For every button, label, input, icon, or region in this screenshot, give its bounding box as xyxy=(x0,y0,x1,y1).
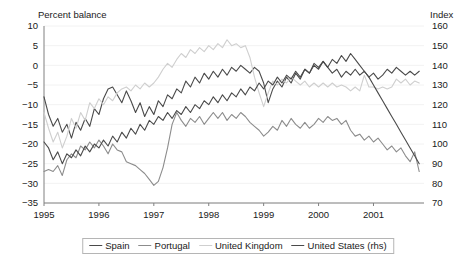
y-axis-tick-label: −20 xyxy=(22,138,38,149)
legend-item-portugal: Portugal xyxy=(139,241,190,251)
legend-swatch-icon xyxy=(139,245,152,246)
legend-label: United States (rhs) xyxy=(308,241,387,251)
y-axis-tick-label: −5 xyxy=(27,79,38,90)
y2-axis-tick-label: 160 xyxy=(432,20,448,31)
y2-axis-tick-label: 70 xyxy=(432,197,443,208)
y-axis-tick-label: −35 xyxy=(22,197,38,208)
legend-swatch-icon xyxy=(292,245,305,246)
y-axis-tick-label: −30 xyxy=(22,178,38,189)
y-axis-tick-label: 10 xyxy=(27,20,38,31)
y2-axis-tick-label: 130 xyxy=(432,79,448,90)
y2-axis-tick-label: 150 xyxy=(432,40,448,51)
y2-axis-tick-label: 140 xyxy=(432,60,448,71)
y2-axis-tick-label: 80 xyxy=(432,178,443,189)
legend-item-spain: Spain xyxy=(89,241,129,251)
x-axis-tick-label: 1995 xyxy=(33,209,54,220)
y-axis-tick-label: 5 xyxy=(33,40,38,51)
y2-axis-tick-label: 100 xyxy=(432,138,448,149)
y-axis-tick-label: −10 xyxy=(22,99,38,110)
y2-axis-tick-label: 90 xyxy=(432,158,443,169)
legend-swatch-icon xyxy=(199,245,212,246)
x-axis-tick-label: 1997 xyxy=(143,209,164,220)
y-axis-tick-label: 0 xyxy=(33,60,38,71)
x-axis-tick-label: 1998 xyxy=(198,209,219,220)
legend-item-united-states-rhs: United States (rhs) xyxy=(292,241,387,251)
y2-axis-tick-label: 110 xyxy=(432,119,447,130)
x-axis-tick-label: 2001 xyxy=(363,209,384,220)
y2-axis-tick-label: 120 xyxy=(432,99,448,110)
legend-swatch-icon xyxy=(89,245,102,246)
legend-label: Spain xyxy=(105,241,129,251)
chart-container: 1050−5−10−15−20−25−30−351601501401301201… xyxy=(0,0,476,270)
x-axis-tick-label: 1996 xyxy=(88,209,109,220)
x-axis-tick-label: 2000 xyxy=(308,209,329,220)
series-line-portugal xyxy=(44,113,419,186)
y-axis-tick-label: −15 xyxy=(22,119,38,130)
legend-label: United Kingdom xyxy=(215,241,283,251)
legend-label: Portugal xyxy=(155,241,190,251)
y-axis-tick-label: −25 xyxy=(22,158,38,169)
line-chart: 1050−5−10−15−20−25−30−351601501401301201… xyxy=(0,0,476,232)
chart-legend: SpainPortugalUnited KingdomUnited States… xyxy=(82,238,394,254)
right-axis-title: Index xyxy=(430,9,453,20)
x-axis-tick-label: 1999 xyxy=(253,209,274,220)
left-axis-title: Percent balance xyxy=(38,9,107,20)
legend-item-united-kingdom: United Kingdom xyxy=(199,241,283,251)
